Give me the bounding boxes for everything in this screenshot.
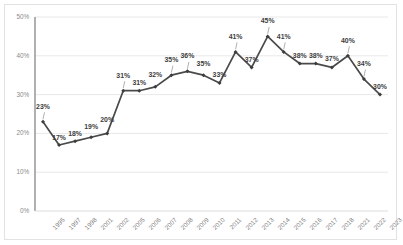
label-leader-line [171, 66, 173, 73]
data-point-label: 31% [132, 79, 146, 86]
data-point-label: 34% [357, 60, 371, 67]
data-point-marker [137, 89, 141, 93]
gridlines [35, 17, 388, 211]
label-leader-line [268, 27, 270, 34]
data-point-label: 17% [52, 134, 66, 141]
data-point-label: 37% [325, 55, 339, 62]
data-point-label: 35% [197, 60, 211, 67]
data-point-marker [185, 69, 189, 73]
label-leader-line [236, 42, 238, 49]
data-point-label: 41% [229, 33, 243, 40]
data-point-label: 30% [373, 83, 387, 90]
data-point-label: 38% [309, 52, 323, 59]
data-point-label: 40% [341, 37, 355, 44]
label-leader-lines [43, 27, 365, 119]
data-point-label: 37% [245, 56, 259, 63]
data-point-label: 41% [277, 33, 291, 40]
data-point-label: 33% [213, 71, 227, 78]
data-point-marker [89, 135, 93, 139]
data-point-label: 36% [181, 52, 195, 59]
label-leader-line [123, 81, 125, 88]
label-leader-line [43, 112, 45, 119]
data-point-label: 31% [116, 72, 130, 79]
data-point-label: 18% [68, 130, 82, 137]
data-point-marker [314, 62, 318, 66]
data-point-label: 35% [164, 56, 178, 63]
label-leader-line [348, 46, 350, 53]
data-point-label: 19% [84, 123, 98, 130]
data-point-label: 45% [261, 17, 275, 24]
data-point-label: 38% [293, 52, 307, 59]
data-point-label: 23% [36, 103, 50, 110]
label-leader-line [187, 62, 189, 69]
label-leader-line [364, 70, 366, 77]
label-leader-line [284, 42, 286, 49]
data-point-label: 20% [100, 116, 114, 123]
data-point-marker [73, 139, 77, 143]
data-point-label: 32% [148, 71, 162, 78]
